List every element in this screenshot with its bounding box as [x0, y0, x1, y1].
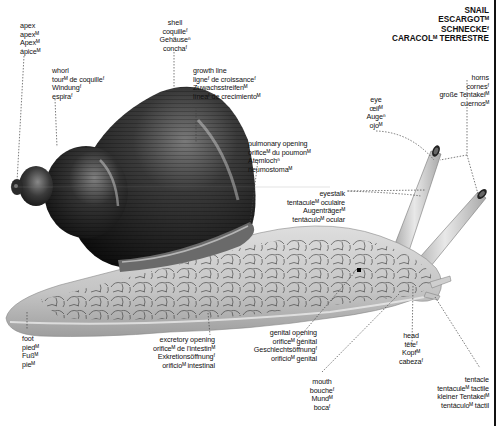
label-eyestalk: eyestalktentaculeᴹ oculaireAugenträgerᴹt…	[287, 190, 345, 224]
label-pulmonary-opening: pulmonary openingorificeᴹ du poumonᴹAtem…	[248, 140, 311, 174]
label-whorl: whorltourᴹ de coquilleᶠWindungᶠespiraᶠ	[52, 67, 104, 101]
label-eye: eyeœilᴹAugeⁿojoᴹ	[362, 96, 390, 130]
title-en: SNAIL	[392, 6, 489, 15]
label-mouth: mouthboucheᶠMundᴹbocaᶠ	[304, 378, 340, 412]
label-foot: footpiedᴹFußᴹpieᴹ	[22, 335, 39, 369]
title-de: SCHNECKEᶠ	[392, 25, 489, 34]
label-head: headtêteᶠKopfᴹcabezaᶠ	[396, 332, 426, 366]
label-growth-line: growth lineligneᶠ de croissanceᶠZuwachss…	[193, 67, 260, 101]
snail-diagram: SNAIL ESCARGOTᴹ SCHNECKEᶠ CARACOLᴹ TERRE…	[0, 0, 499, 426]
label-tentacle: tentacletentaculeᴹ tactilekleiner Tentak…	[437, 376, 489, 410]
label-horns: hornscornesᶠgroße Tentakelᴹcuernosᴹ	[439, 74, 489, 108]
label-genital-opening: genital openingorificeᴹ génitalGeschlech…	[254, 329, 317, 363]
label-shell: shellcoquilleᶠGehäuseⁿconchaᶠ	[158, 19, 192, 53]
title-fr: ESCARGOTᴹ	[392, 15, 489, 24]
label-apex: apexapexᴹApexᴹápiceᴹ	[20, 22, 40, 56]
label-excretory-opening: excretory openingorificeᴹ de l'intestinᴹ…	[153, 336, 215, 370]
frame-border	[494, 0, 496, 426]
diagram-title: SNAIL ESCARGOTᴹ SCHNECKEᶠ CARACOLᴹ TERRE…	[392, 6, 489, 44]
title-es: CARACOLᴹ TERRESTRE	[392, 34, 489, 43]
